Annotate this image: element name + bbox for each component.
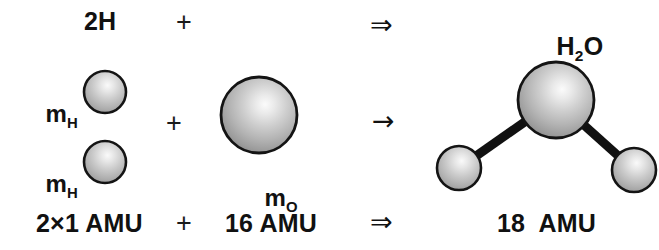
- mass-h-subscript-bottom: H: [67, 185, 78, 201]
- plus-middle: +: [166, 110, 182, 137]
- arrow-middle-single: →: [372, 107, 395, 134]
- arrow-bottom-double: ⇒: [370, 208, 393, 235]
- arrow-top-double: ⇒: [370, 11, 393, 38]
- oxygen-sphere-reactant: [221, 77, 297, 153]
- mass-label-hydrogen-top: mH: [18, 78, 78, 155]
- mass-h-symbol-top: m: [45, 100, 67, 127]
- mass-value-oxygen: 16 AMU: [225, 211, 317, 236]
- mass-value-water: 18 AMU: [497, 211, 596, 236]
- product-formula-subscript-2: 2: [575, 47, 584, 64]
- product-formula-o-text: O: [584, 32, 604, 60]
- mass-h-subscript-top: H: [67, 115, 78, 131]
- plus-top: +: [176, 9, 192, 36]
- hydrogen-sphere-product-right: [612, 148, 656, 192]
- mass-value-hydrogen: 2×1 AMU: [36, 211, 143, 236]
- hydrogen-sphere-reactant-bottom: [84, 141, 126, 183]
- reactant-hydrogen-formula: 2H: [84, 9, 116, 34]
- reaction-diagram: 2H + ⇒ H2O mH mH + mO → 2×1 AMU + 16 AMU…: [0, 0, 659, 250]
- product-formula-h-text: H: [557, 32, 575, 60]
- mass-o-symbol: m: [264, 184, 286, 211]
- hydrogen-sphere-product-left: [437, 146, 481, 190]
- hydrogen-sphere-reactant-top: [84, 71, 126, 113]
- mass-h-symbol-bottom: m: [45, 170, 67, 197]
- product-formula-water: H2O: [528, 9, 603, 89]
- plus-bottom: +: [176, 210, 192, 237]
